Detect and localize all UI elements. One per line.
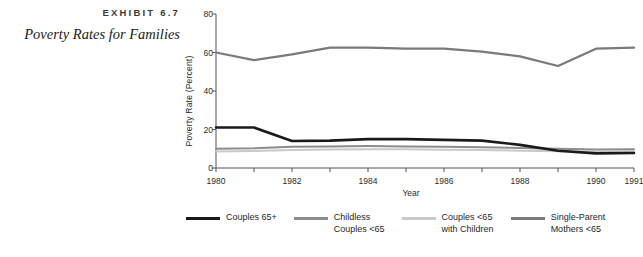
series-line — [216, 48, 634, 66]
chart-legend: Couples 65+Childless Couples <65Couples … — [186, 212, 636, 235]
legend-swatch-icon — [186, 217, 220, 220]
exhibit-label: EXHIBIT 6.7 — [0, 6, 186, 19]
legend-item[interactable]: Couples 65+ — [186, 212, 277, 235]
chart-plot-area: Poverty Rate (Percent) Year 020406080 19… — [186, 6, 636, 206]
legend-swatch-icon — [511, 217, 545, 220]
exhibit-title: Poverty Rates for Families — [0, 26, 186, 43]
legend-label: Childless Couples <65 — [334, 212, 385, 235]
chart-canvas — [186, 6, 636, 206]
legend-label: Couples <65 with Children — [442, 212, 494, 235]
exhibit-heading: EXHIBIT 6.7 Poverty Rates for Families — [0, 6, 186, 43]
legend-swatch-icon — [402, 217, 436, 220]
legend-label: Couples 65+ — [226, 212, 277, 224]
legend-swatch-icon — [294, 217, 328, 220]
legend-label: Single-Parent Mothers <65 — [551, 212, 606, 235]
legend-item[interactable]: Couples <65 with Children — [402, 212, 494, 235]
legend-item[interactable]: Childless Couples <65 — [294, 212, 385, 235]
legend-item[interactable]: Single-Parent Mothers <65 — [511, 212, 606, 235]
